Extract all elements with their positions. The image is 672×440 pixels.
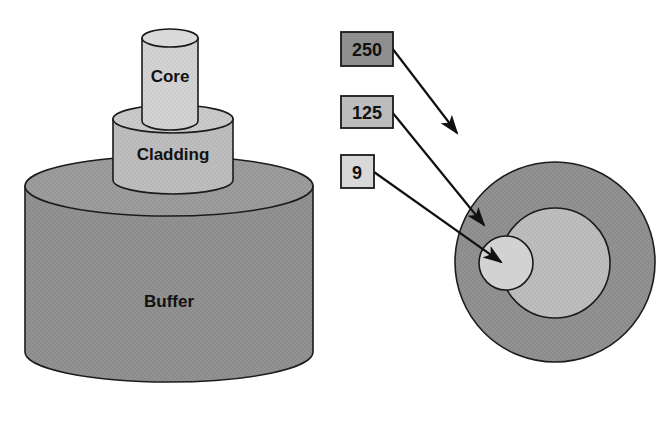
core-top-face — [142, 29, 198, 47]
cross-section-core-region — [479, 236, 533, 290]
leader-line-125 — [392, 112, 484, 225]
callout-125[interactable]: 125 — [341, 96, 393, 128]
buffer-label: Buffer — [144, 292, 194, 311]
cladding-label: Cladding — [137, 145, 210, 164]
cross-section-diagram: 250 125 9 — [341, 32, 655, 362]
fiber-diagram-figure: Core Cladding Buffer 250 125 — [0, 0, 672, 440]
callout-250-value: 250 — [352, 40, 382, 60]
callout-9-value: 9 — [352, 163, 362, 183]
diagram-canvas: Core Cladding Buffer 250 125 — [0, 0, 672, 440]
stacked-cylinder-diagram: Core Cladding Buffer — [25, 29, 313, 382]
callout-250[interactable]: 250 — [341, 32, 393, 66]
callout-125-value: 125 — [352, 103, 382, 123]
core-label: Core — [151, 67, 190, 86]
callout-9[interactable]: 9 — [341, 155, 374, 188]
leader-line-250 — [392, 48, 457, 133]
